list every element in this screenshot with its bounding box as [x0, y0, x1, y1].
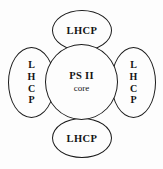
lhcp-right-letter-l: L	[130, 59, 137, 71]
lhcp-right-label: L H C P	[130, 59, 138, 106]
ps2-core-label-primary: PS II	[69, 70, 94, 82]
ps2-core-label-secondary: core	[74, 83, 90, 94]
ps2-core-circle: PS II core	[45, 44, 118, 120]
lhcp-bottom-label: LHCP	[67, 133, 98, 144]
lhcp-right-letter-p: P	[130, 94, 136, 106]
lhcp-left-letter-h: H	[28, 71, 36, 83]
lhcp-right-letter-c: C	[130, 83, 137, 95]
lhcp-left-letter-l: L	[28, 59, 35, 71]
lhcp-top-label: LHCP	[67, 25, 98, 36]
lhcp-right-letter-h: H	[130, 71, 138, 83]
photosystem-diagram: LHCP L H C P L H C P LHCP PS II core	[0, 0, 163, 169]
lhcp-left-letter-c: C	[28, 83, 35, 95]
lhcp-bottom-ellipse: LHCP	[52, 118, 112, 158]
lhcp-left-letter-p: P	[28, 94, 34, 106]
lhcp-left-label: L H C P	[28, 59, 36, 106]
